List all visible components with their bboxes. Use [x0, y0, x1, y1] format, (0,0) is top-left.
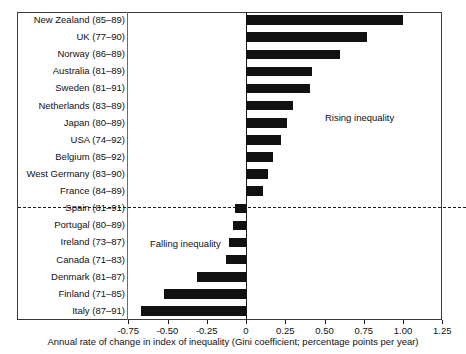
bar-row: New Zealand (85–89): [0, 12, 466, 28]
x-axis-tick-label: 0.25: [276, 325, 295, 336]
x-axis-tick-label: -0.25: [196, 325, 218, 336]
bar-row: Japan (80–89): [0, 115, 466, 131]
category-label: Spain (81–91): [65, 200, 125, 216]
x-axis-tick-mark: [364, 320, 365, 324]
x-axis-tick-label: 0.75: [355, 325, 374, 336]
bar: [197, 272, 246, 282]
category-label: Belgium (85–92): [55, 149, 125, 165]
x-axis-tick-mark: [442, 320, 443, 324]
bar-row: Belgium (85–92): [0, 149, 466, 165]
x-axis-tick-mark: [168, 320, 169, 324]
bar-row: Portugal (80–89): [0, 217, 466, 233]
bar-row: Ireland (73–87): [0, 234, 466, 250]
rising-falling-divider: [18, 207, 466, 208]
bar: [246, 135, 281, 145]
x-axis-tick-mark: [403, 320, 404, 324]
bar-row: France (84–89): [0, 183, 466, 199]
bar-row: Italy (87–91): [0, 303, 466, 319]
x-axis-label: Annual rate of change in index of inequa…: [0, 336, 466, 347]
bar: [226, 255, 246, 265]
category-label: UK (77–90): [76, 29, 125, 45]
bar: [246, 32, 367, 42]
x-axis-tick-mark: [128, 320, 129, 324]
figure-container: New Zealand (85–89)UK (77–90)Norway (86–…: [0, 0, 466, 354]
bar: [246, 15, 403, 25]
bar: [235, 204, 246, 214]
bar-row: Denmark (81–87): [0, 269, 466, 285]
category-label: Japan (80–89): [64, 115, 125, 131]
category-label: Finland (71–85): [58, 286, 125, 302]
bar-row: Netherlands (83–89): [0, 98, 466, 114]
category-label: Denmark (81–87): [51, 269, 125, 285]
bar: [246, 118, 287, 128]
bar-row: Canada (71–83): [0, 252, 466, 268]
x-axis-tick-mark: [207, 320, 208, 324]
annotation-rising-inequality: Rising inequality: [325, 112, 394, 123]
x-axis-tick-mark: [246, 320, 247, 324]
category-label: France (84–89): [60, 183, 125, 199]
bar-row: USA (74–92): [0, 132, 466, 148]
x-axis-tick-label: 1.00: [394, 325, 413, 336]
category-label: USA (74–92): [71, 132, 125, 148]
category-label: Norway (86–89): [57, 46, 125, 62]
category-label: Ireland (73–87): [61, 234, 125, 250]
bar-row: Finland (71–85): [0, 286, 466, 302]
bar-row: Sweden (81–91): [0, 80, 466, 96]
bar-rows: New Zealand (85–89)UK (77–90)Norway (86–…: [0, 12, 466, 320]
bar-row: Australia (81–89): [0, 63, 466, 79]
bar: [164, 289, 246, 299]
bar: [229, 238, 246, 248]
x-axis-tick-label: -0.50: [157, 325, 179, 336]
x-axis-tick-label: 0.50: [315, 325, 334, 336]
category-label: Portugal (80–89): [54, 217, 125, 233]
category-label: West Germany (83–90): [26, 166, 125, 182]
bar: [141, 306, 246, 316]
bar: [246, 50, 340, 60]
bar: [246, 84, 310, 94]
category-label: Netherlands (83–89): [38, 98, 125, 114]
annotation-falling-inequality: Falling inequality: [150, 238, 221, 249]
bar: [246, 152, 273, 162]
bar: [246, 101, 293, 111]
bar-row: Spain (81–91): [0, 200, 466, 216]
category-label: Italy (87–91): [72, 303, 125, 319]
bar: [246, 67, 312, 77]
x-axis-tick-mark: [325, 320, 326, 324]
bar: [246, 169, 268, 179]
bar-row: West Germany (83–90): [0, 166, 466, 182]
bar-row: Norway (86–89): [0, 46, 466, 62]
category-label: Sweden (81–91): [55, 80, 125, 96]
bar: [233, 221, 246, 231]
x-axis-tick-label: -0.75: [117, 325, 139, 336]
x-axis-tick-label: 0: [243, 325, 248, 336]
category-label: Australia (81–89): [53, 63, 125, 79]
category-label: Canada (71–83): [56, 252, 125, 268]
cropped-header-text: [210, 0, 460, 11]
bar-row: UK (77–90): [0, 29, 466, 45]
bar: [246, 186, 263, 196]
x-axis-tick-label: 1.25: [433, 325, 452, 336]
category-label: New Zealand (85–89): [34, 12, 125, 28]
x-axis-tick-mark: [285, 320, 286, 324]
